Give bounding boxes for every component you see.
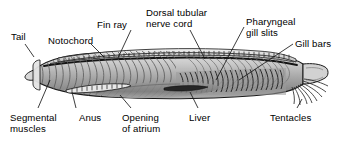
label-atrium_1: Opening [122, 113, 159, 124]
label-nerve_cord_2: nerve cord [146, 19, 192, 30]
label-atrium_2: of atrium [122, 124, 160, 135]
label-tentacles: Tentacles [270, 113, 311, 124]
leader-line-anus [72, 92, 76, 108]
label-nerve_cord_1: Dorsal tubular [146, 8, 207, 19]
label-gill_slits_2: gill slits [246, 28, 278, 39]
label-anus: Anus [79, 113, 101, 124]
label-seg_muscles_2: muscles [10, 124, 46, 135]
lancelet-anatomy-figure: TailNotochordFin rayDorsal tubularnerve … [0, 0, 360, 147]
label-seg_muscles_1: Segmental [10, 113, 57, 124]
label-liver: Liver [189, 113, 210, 124]
label-tail: Tail [11, 32, 26, 43]
label-gill_bars: Gill bars [295, 39, 331, 50]
tail-fin [25, 60, 40, 90]
leader-line-tail [25, 44, 34, 57]
label-fin_ray: Fin ray [97, 20, 127, 31]
label-notochord: Notochord [48, 36, 93, 47]
label-gill_slits_1: Pharyngeal [246, 17, 296, 28]
